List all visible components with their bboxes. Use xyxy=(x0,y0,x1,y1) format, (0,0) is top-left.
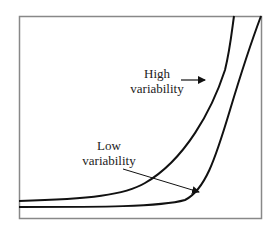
high-variability-curve xyxy=(19,16,234,201)
low-variability-label: Low variability xyxy=(80,138,138,168)
high-label-line1: High xyxy=(128,66,186,81)
diagram-canvas xyxy=(0,0,273,235)
low-label-line1: Low xyxy=(80,138,138,153)
low-label-line2: variability xyxy=(80,153,138,168)
low-variability-curve xyxy=(19,16,261,207)
high-variability-label: High variability xyxy=(128,66,186,96)
high-label-line2: variability xyxy=(128,81,186,96)
plot-frame xyxy=(20,17,262,219)
